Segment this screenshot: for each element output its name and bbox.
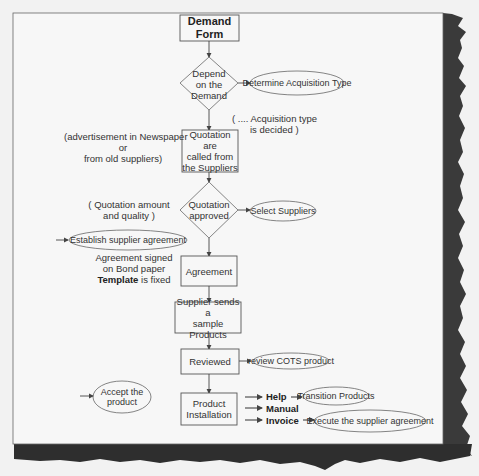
quotation-approved-node: Quotation approved [180,198,238,222]
supplier-sample-node: Supplier sends a sample Products [175,302,241,333]
review-cots-label: review COTS product [253,355,329,367]
agreement-node: Agreement [181,256,237,286]
accept-product-label-1: Accept the [101,387,144,397]
acquisition-note-2: is decided ) [232,124,317,135]
quotation-called-label-3: the Suppliers [182,162,237,173]
advertisement-note: (advertisement in Newspaper or from old … [64,131,182,164]
execute-agreement-label: Execute the supplier agreement [314,415,426,427]
quotation-approved-label-2: approved [189,210,229,221]
product-installation-label-2: Installation [186,409,231,420]
advertisement-note-2: or [64,142,182,153]
quotation-amount-note-2: and quality ) [84,210,174,221]
depend-decision-node: Depend on the Demand [180,66,238,102]
template-note: Template is fixed [94,274,174,285]
invoice-output: Invoice [266,415,299,426]
acquisition-note-1: ( .... Acquisition type [232,113,317,124]
quotation-called-label-1: Quotation are [182,129,238,151]
acquisition-decided-note: ( .... Acquisition type is decided ) [232,113,317,135]
flowchart-page: Demand Form Depend on the Demand Determi… [0,0,479,476]
paper-shadow-bottom [14,444,472,470]
quotation-amount-note: ( Quotation amount and quality ) [84,199,174,221]
depend-label-2: on the [196,79,222,90]
paper-shadow-right [443,13,472,456]
depend-label-3: Demand [191,90,227,101]
help-output: Help [266,391,287,402]
demand-form-label-1: Demand [188,15,231,28]
accept-product-label-2: product [107,397,137,407]
quotation-called-node: Quotation are called from the Suppliers [182,130,238,172]
advertisement-note-3: from old suppliers) [64,153,182,164]
agreement-signed-note-2: on Bond paper [94,263,174,274]
product-installation-node: Product Installation [181,393,237,425]
supplier-sample-label-2: sample Products [175,318,241,340]
determine-acquisition-label: Determine Acquisition Type [250,77,344,89]
demand-form-label-2: Form [196,28,224,41]
quotation-called-label-2: called from [187,151,233,162]
establish-agreement-label: Establish supplier agreement [69,234,187,246]
reviewed-node: Reviewed [181,349,239,374]
select-suppliers-label: Select Suppliers [250,205,316,217]
template-rest: is fixed [138,274,170,285]
supplier-sample-label-1: Supplier sends a [175,296,241,318]
quotation-amount-note-1: ( Quotation amount [84,199,174,210]
quotation-approved-label-1: Quotation [188,199,229,210]
accept-product-label: Accept the product [93,386,151,408]
template-bold: Template [97,274,138,285]
product-installation-label-1: Product [193,398,226,409]
depend-label-1: Depend [192,68,225,79]
agreement-signed-note: Agreement signed on Bond paper Template … [94,252,174,285]
manual-output: Manual [266,403,299,414]
agreement-signed-note-1: Agreement signed [94,252,174,263]
advertisement-note-1: (advertisement in Newspaper [64,131,182,142]
transition-products-label: Transition Products [303,390,369,402]
demand-form-node: Demand Form [180,15,239,41]
